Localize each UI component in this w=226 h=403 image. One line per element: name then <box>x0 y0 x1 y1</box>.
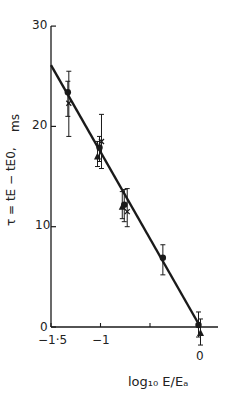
y-tick-label-20: 20 <box>32 118 47 132</box>
chart-plot-area <box>0 0 226 403</box>
y-tick-label-10: 10 <box>35 218 50 232</box>
x-axis-label: log₁₀ E/Eₐ <box>128 374 188 389</box>
x-tick-label-minus-1-5: −1·5 <box>38 333 67 347</box>
x-tick-label-0: 0 <box>196 349 204 363</box>
data-point-circle <box>65 89 71 95</box>
data-point-circle <box>160 255 166 261</box>
x-tick-label-minus-1: −1 <box>92 333 110 347</box>
y-axis-label: τ = tE − tE0, <box>4 147 18 226</box>
y-axis-unit: ms <box>8 114 22 132</box>
y-tick-label-30: 30 <box>32 18 47 32</box>
y-tick-label-0: 0 <box>40 320 48 334</box>
